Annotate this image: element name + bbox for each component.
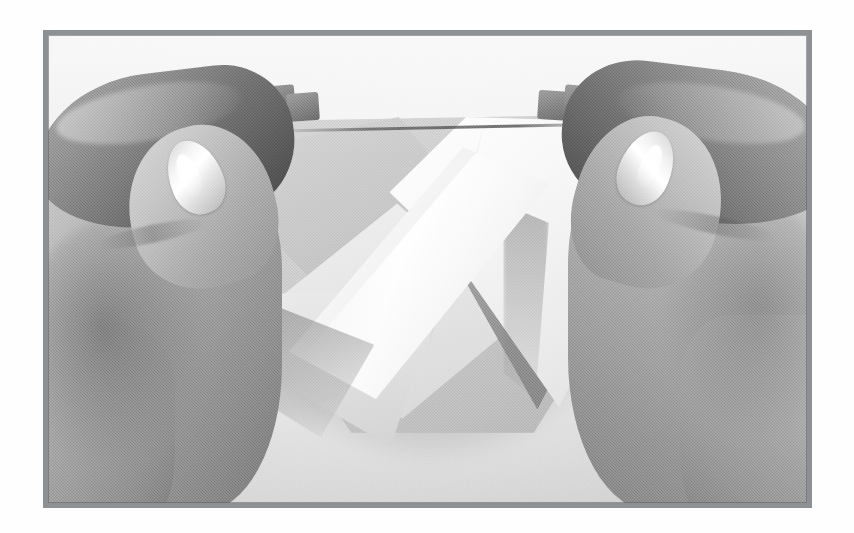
page-canvas [0,0,854,533]
photo-frame [43,30,812,508]
hand-right [526,63,807,503]
hand-left [48,63,329,503]
photograph [48,35,807,503]
